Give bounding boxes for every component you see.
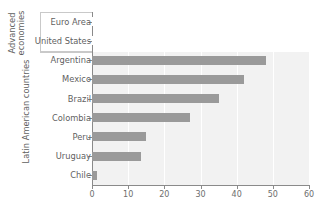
category-label-mexico: Mexico <box>62 74 91 84</box>
x-tick-40 <box>237 185 238 189</box>
group-label-advanced-line2: economies <box>17 3 26 63</box>
x-tick-label-40: 40 <box>232 190 242 199</box>
x-tick-10 <box>128 185 129 189</box>
x-tick-label-0: 0 <box>89 190 94 199</box>
x-tick-label-30: 30 <box>195 190 205 199</box>
bar-chile <box>92 171 97 180</box>
x-tick-20 <box>164 185 165 189</box>
x-tick-50 <box>273 185 274 189</box>
group-separator <box>40 52 92 53</box>
category-label-argentina: Argentina <box>51 55 91 65</box>
bar-brazil <box>92 94 219 103</box>
x-tick-label-60: 60 <box>304 190 314 199</box>
category-label-colombia: Colombia <box>52 113 91 123</box>
x-tick-0 <box>92 185 93 189</box>
category-label-uruguay: Uruguay <box>56 151 91 161</box>
bar-peru <box>92 132 146 141</box>
group-label-advanced-economies: Advanced economies <box>8 3 26 63</box>
category-label-chile: Chile <box>70 170 91 180</box>
x-tick-60 <box>309 185 310 189</box>
bar-argentina <box>92 56 266 65</box>
category-label-peru: Peru <box>73 132 91 142</box>
category-label-brazil: Brazil <box>68 94 91 104</box>
bar-chart-figure: Advanced economies Latin American countr… <box>0 0 319 210</box>
bar-mexico <box>92 75 244 84</box>
x-tick-label-50: 50 <box>268 190 278 199</box>
category-label-united-states: United States <box>35 36 91 46</box>
bar-colombia <box>92 113 190 122</box>
bar-uruguay <box>92 152 141 161</box>
category-label-euro-area: Euro Area <box>50 17 91 27</box>
group-label-latin-american-countries: Latin American countries <box>22 57 31 167</box>
x-tick-label-10: 10 <box>123 190 133 199</box>
x-tick-30 <box>201 185 202 189</box>
bar-euro-area <box>92 17 163 26</box>
bar-united-states <box>92 36 146 45</box>
x-tick-label-20: 20 <box>159 190 169 199</box>
